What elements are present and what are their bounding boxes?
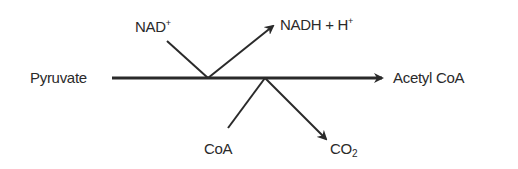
- label-nad: NAD+: [135, 19, 171, 35]
- label-pyruvate: Pyruvate: [30, 70, 87, 86]
- label-acetyl-coa: Acetyl CoA: [393, 70, 464, 86]
- nad-input-line: [167, 41, 208, 78]
- label-nadh: NADH + H+: [280, 17, 353, 33]
- co2-text: CO: [330, 140, 352, 157]
- nad-text: NAD: [135, 18, 166, 35]
- co2-subscript: 2: [352, 148, 357, 159]
- nadh-output-arrow: [208, 26, 273, 78]
- coa-input-line: [228, 78, 265, 128]
- nadh-superscript: +: [348, 16, 353, 26]
- co2-output-arrow: [265, 78, 326, 139]
- nadh-text: NADH + H: [280, 16, 348, 33]
- nad-superscript: +: [166, 18, 171, 28]
- label-coa: CoA: [204, 141, 232, 157]
- label-co2: CO2: [330, 141, 357, 157]
